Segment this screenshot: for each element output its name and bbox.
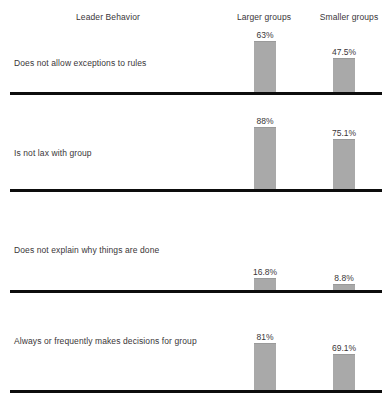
row-label: Always or frequently makes decisions for… [14,336,197,346]
bar-larger-groups [254,278,276,290]
bar-value-larger: 63% [244,30,286,40]
chart-panel: 16.8% 8.8% Does not explain why things a… [0,200,392,300]
bar-value-larger: 88% [244,116,286,126]
bar-value-smaller: 47.5% [323,47,365,57]
bar-value-larger: 16.8% [244,267,286,277]
panel-baseline [10,92,382,95]
row-label: Does not allow exceptions to rules [14,58,146,68]
row-label: Is not lax with group [14,148,92,158]
bar-larger-groups [254,343,276,390]
bar-larger-groups [254,41,276,92]
bar-smaller-groups [333,354,355,390]
chart-panel: 81% 69.1% Always or frequently makes dec… [0,300,392,406]
chart-panel: 88% 75.1% Is not lax with group [0,100,392,200]
leader-behavior-chart: Leader Behavior Larger groups Smaller gr… [0,0,392,406]
panel-baseline [10,290,382,293]
bar-smaller-groups [333,139,355,189]
bar-value-smaller: 69.1% [323,343,365,353]
bar-smaller-groups [333,58,355,92]
panel-baseline [10,390,382,393]
chart-panel: 63% 47.5% Does not allow exceptions to r… [0,0,392,100]
panel-baseline [10,189,382,192]
bar-value-smaller: 8.8% [323,273,365,283]
bar-value-smaller: 75.1% [323,128,365,138]
row-label: Does not explain why things are done [14,245,159,255]
bar-value-larger: 81% [244,332,286,342]
bar-larger-groups [254,127,276,189]
